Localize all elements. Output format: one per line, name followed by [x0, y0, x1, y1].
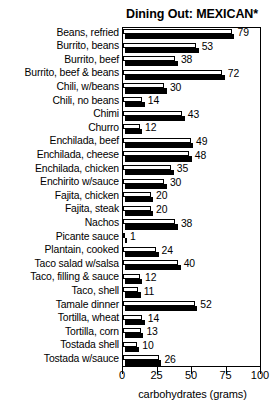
category-label: Fajita, steak — [65, 203, 119, 215]
bar-row: Fajita, steak20 — [0, 204, 275, 218]
bar — [123, 260, 181, 270]
bar — [123, 342, 139, 352]
bar-value-label: 1 — [130, 231, 136, 242]
bar-shadow-face — [125, 156, 191, 161]
x-axis-title: carbohydrates (grams) — [122, 388, 263, 400]
x-axis-tick-labels: 0255075100 — [0, 369, 275, 383]
bar-value-label: 26 — [164, 354, 175, 365]
category-label: Fajita, chicken — [55, 190, 119, 202]
bar-value-label: 38 — [181, 54, 192, 65]
bar-row: Churro12 — [0, 122, 275, 136]
category-label: Chili, no beans — [53, 95, 120, 107]
bar-shadow-face — [125, 333, 143, 338]
bar — [123, 29, 234, 39]
bar-value-label: 12 — [145, 122, 156, 133]
bar — [123, 97, 145, 107]
bar-row: Picante sauce1 — [0, 231, 275, 245]
x-axis-tick-label: 100 — [240, 369, 275, 382]
category-label: Tostada w/sauce — [44, 353, 119, 365]
bar-shadow-face — [125, 211, 153, 216]
category-label: Nachos — [85, 217, 119, 229]
bar-value-label: 43 — [188, 109, 199, 120]
category-label: Enchilada, beef — [50, 135, 119, 147]
bar-row: Tortilla, wheat14 — [0, 313, 275, 327]
bar-value-label: 48 — [195, 150, 206, 161]
bar-row: Tortilla, corn13 — [0, 326, 275, 340]
bar-row: Tamale dinner52 — [0, 299, 275, 313]
bar-shadow-face — [125, 88, 166, 93]
bar-shadow-face — [125, 116, 184, 121]
category-label: Plantain, cooked — [45, 244, 119, 256]
bar — [123, 315, 145, 325]
bar — [123, 355, 161, 365]
bar-shadow-face — [125, 238, 127, 243]
category-label: Tortilla, wheat — [58, 312, 119, 324]
bar-shadow-face — [125, 48, 198, 53]
bar-value-label: 49 — [196, 136, 207, 147]
bar — [123, 206, 153, 216]
category-label: Picante sauce — [56, 231, 119, 243]
bar — [123, 301, 197, 311]
bar — [123, 83, 167, 93]
chart-title: Dining Out: MEXICAN* — [122, 7, 262, 21]
bar-shadow-face — [125, 320, 144, 325]
bar-shadow-face — [125, 292, 140, 297]
category-label: Taco, filling & sauce — [30, 271, 119, 283]
bar — [123, 179, 167, 189]
bar — [123, 328, 143, 338]
bar — [123, 70, 225, 80]
bar-shadow-face — [125, 102, 144, 107]
bar-shadow-face — [125, 252, 158, 257]
bar — [123, 219, 178, 229]
bar — [123, 111, 185, 121]
bar-value-label: 14 — [148, 313, 159, 324]
category-label: Enchilada, cheese — [37, 149, 119, 161]
bar-shadow-face — [125, 143, 193, 148]
bar-row: Tostada shell10 — [0, 340, 275, 354]
category-label: Churro — [88, 122, 119, 134]
bar — [123, 274, 142, 284]
bar-value-label: 79 — [238, 27, 249, 38]
bar — [123, 233, 127, 243]
bar-shadow-face — [125, 170, 173, 175]
bar-value-label: 53 — [202, 41, 213, 52]
bar-shadow-face — [125, 224, 177, 229]
bar-shadow-face — [125, 279, 142, 284]
bar-value-label: 12 — [145, 272, 156, 283]
bar-value-label: 24 — [162, 245, 173, 256]
bar-row: Chimi43 — [0, 109, 275, 123]
bar-value-label: 38 — [181, 218, 192, 229]
bar-value-label: 14 — [148, 95, 159, 106]
bar-row: Nachos38 — [0, 217, 275, 231]
bar-value-label: 20 — [156, 204, 167, 215]
bar-value-label: 11 — [144, 286, 155, 297]
bar — [123, 124, 142, 134]
category-label: Burrito, beef — [64, 54, 119, 66]
bar — [123, 165, 174, 175]
bar-rows-container: Beans, refried79Burrito, beans53Burrito,… — [0, 27, 275, 367]
bar-value-label: 52 — [200, 299, 211, 310]
category-label: Tamale dinner — [56, 299, 119, 311]
category-label: Enchilada, chicken — [35, 163, 119, 175]
bar-value-label: 40 — [184, 258, 195, 269]
bar-shadow-face — [125, 34, 234, 39]
bar-row: Taco, filling & sauce12 — [0, 272, 275, 286]
bar-row: Chili, w/beans30 — [0, 81, 275, 95]
category-label: Taco salad w/salsa — [34, 258, 119, 270]
bar-shadow-face — [125, 360, 161, 365]
bar-row: Taco, shell11 — [0, 285, 275, 299]
bar — [123, 56, 178, 66]
category-label: Enchirito w/sauce — [40, 176, 119, 188]
bar-value-label: 30 — [170, 177, 181, 188]
bar-shadow-face — [125, 61, 177, 66]
bar-shadow-face — [125, 75, 224, 80]
category-label: Beans, refried — [56, 27, 119, 39]
bar-value-label: 13 — [146, 326, 157, 337]
bar-shadow-face — [125, 265, 180, 270]
bar-value-label: 35 — [177, 163, 188, 174]
bar — [123, 43, 199, 53]
bar-shadow-face — [125, 306, 197, 311]
category-label: Tortilla, corn — [65, 326, 119, 338]
bar — [123, 151, 192, 161]
category-label: Burrito, beef & beans — [25, 67, 119, 79]
